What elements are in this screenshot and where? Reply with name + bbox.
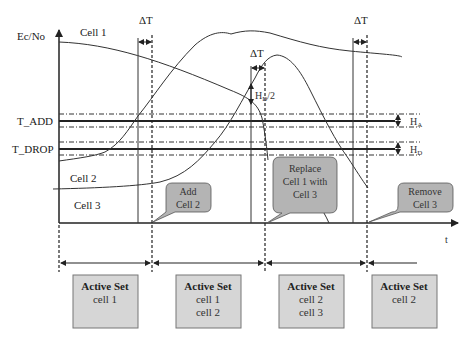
callout-remove-line1: Remove — [408, 186, 442, 197]
svg-text:cell 3: cell 3 — [299, 306, 324, 318]
svg-text:Active Set: Active Set — [287, 280, 335, 292]
delta-t-label-2: ΔT — [250, 47, 264, 59]
svg-text:cell 1: cell 1 — [196, 293, 220, 305]
event-lines — [59, 35, 367, 272]
x-axis-label: t — [445, 234, 448, 245]
svg-text:Active Set: Active Set — [380, 280, 428, 292]
active-set-box-4: Active Set cell 2 — [372, 275, 437, 328]
callout-add-line2: Cell 2 — [176, 199, 200, 210]
callout-replace-line1: Replace — [289, 163, 322, 174]
svg-text:Active Set: Active Set — [81, 280, 129, 292]
active-set-box-2: Active Set cell 1 cell 2 — [176, 275, 241, 328]
curve-cell-2 — [59, 33, 231, 161]
svg-text:cell 2: cell 2 — [299, 293, 323, 305]
callout-replace-cell-1: Replace Cell 1 with Cell 3 — [267, 157, 337, 223]
threshold-t-drop — [59, 142, 420, 155]
curve-label-cell-1: Cell 1 — [80, 26, 107, 38]
svg-text:cell 1: cell 1 — [93, 293, 117, 305]
callout-add-cell-2: Add Cell 2 — [153, 183, 211, 222]
curve-label-cell-2: Cell 2 — [70, 172, 97, 184]
active-set-box-3: Active Set cell 2 cell 3 — [279, 275, 344, 328]
active-set-box-1: Active Set cell 1 — [73, 275, 138, 328]
svg-text:Active Set: Active Set — [184, 280, 232, 292]
curve-label-cell-3: Cell 3 — [74, 199, 101, 211]
callout-remove-cell-3: Remove Cell 3 — [369, 183, 453, 222]
svg-text:cell 2: cell 2 — [392, 293, 416, 305]
t-drop-label: T_DROP — [12, 143, 54, 155]
delta-t-label-1: ΔT — [139, 14, 153, 26]
threshold-t-add — [59, 114, 420, 127]
callout-replace-line3: Cell 3 — [293, 189, 317, 200]
svg-text:cell 2: cell 2 — [196, 306, 220, 318]
delta-t-label-3: ΔT — [354, 14, 368, 26]
callout-add-line1: Add — [179, 186, 196, 197]
callout-remove-line2: Cell 3 — [413, 199, 437, 210]
half-hysteresis-label: HD/2 — [255, 90, 275, 103]
handover-diagram: Ec/No t T_ADD T_DROP HA HD Cell 1 Cell 2… — [0, 0, 472, 341]
y-axis-label: Ec/No — [17, 30, 46, 42]
callout-replace-line2: Cell 1 with — [283, 176, 327, 187]
t-add-label: T_ADD — [17, 115, 53, 127]
